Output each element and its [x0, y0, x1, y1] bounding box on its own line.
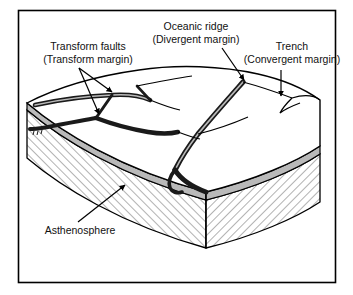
asthenosphere-label: Asthenosphere [45, 224, 116, 236]
block-diagram: Transform faults (Transform margin) Ocea… [0, 0, 353, 295]
oceanic-ridge-label-line2: (Divergent margin) [153, 33, 240, 45]
trench-label-line1: Trench [276, 40, 308, 52]
oceanic-ridge-label-line1: Oceanic ridge [164, 20, 229, 32]
figure-root: Transform faults (Transform margin) Ocea… [0, 0, 353, 295]
earth-block [27, 67, 320, 248]
transform-faults-label-line2: (Transform margin) [43, 53, 132, 65]
trench-label-line2: (Convergent margin) [244, 53, 340, 65]
transform-faults-label-line1: Transform faults [50, 40, 125, 52]
